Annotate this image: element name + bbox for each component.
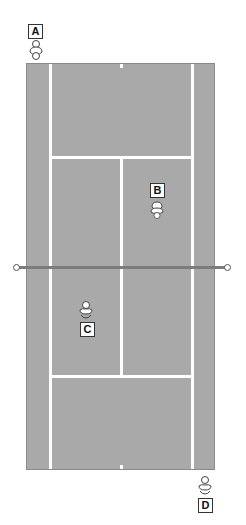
net-post-right	[224, 264, 231, 271]
player-icon-b	[149, 199, 165, 219]
player-icon-c	[78, 301, 94, 321]
player-icon-a	[28, 40, 44, 60]
player-label-c: C	[80, 322, 95, 337]
player-label-a: A	[28, 24, 43, 39]
net-post-left	[13, 264, 20, 271]
player-label-b: B	[150, 183, 165, 198]
center-mark-bottom	[120, 465, 123, 469]
net	[17, 266, 227, 269]
player-label-d: D	[198, 498, 213, 513]
player-icon-d	[197, 476, 213, 496]
center-mark-top	[120, 64, 123, 68]
